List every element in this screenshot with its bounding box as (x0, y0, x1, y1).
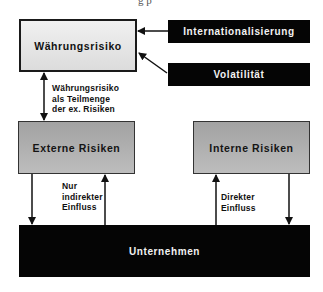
node-label: Internationalisierung (183, 26, 295, 37)
node-label: Interne Risiken (209, 142, 293, 154)
node-volatilitaet: Volatilität (168, 63, 310, 86)
edge-label-indirekt: Nur indirekter Einfluss (62, 181, 103, 213)
edge-label-direkt: Direkter Einfluss (221, 192, 256, 213)
node-waehrungsrisiko: Währungsrisiko (19, 19, 137, 72)
node-label: Externe Risiken (33, 142, 121, 154)
edge-label-teilmenge: Währungsrisiko als Teilmenge der ex. Ris… (52, 83, 119, 115)
node-label: Volatilität (214, 69, 265, 80)
node-label: Währungsrisiko (34, 40, 122, 52)
arrow-volatilitaet-to-waehrungsrisiko (139, 53, 167, 73)
node-internationalisierung: Internationalisierung (168, 20, 310, 43)
node-label: Unternehmen (129, 246, 200, 257)
node-interne-risiken: Interne Risiken (193, 121, 310, 174)
node-unternehmen: Unternehmen (19, 225, 310, 277)
node-externe-risiken: Externe Risiken (18, 121, 135, 174)
